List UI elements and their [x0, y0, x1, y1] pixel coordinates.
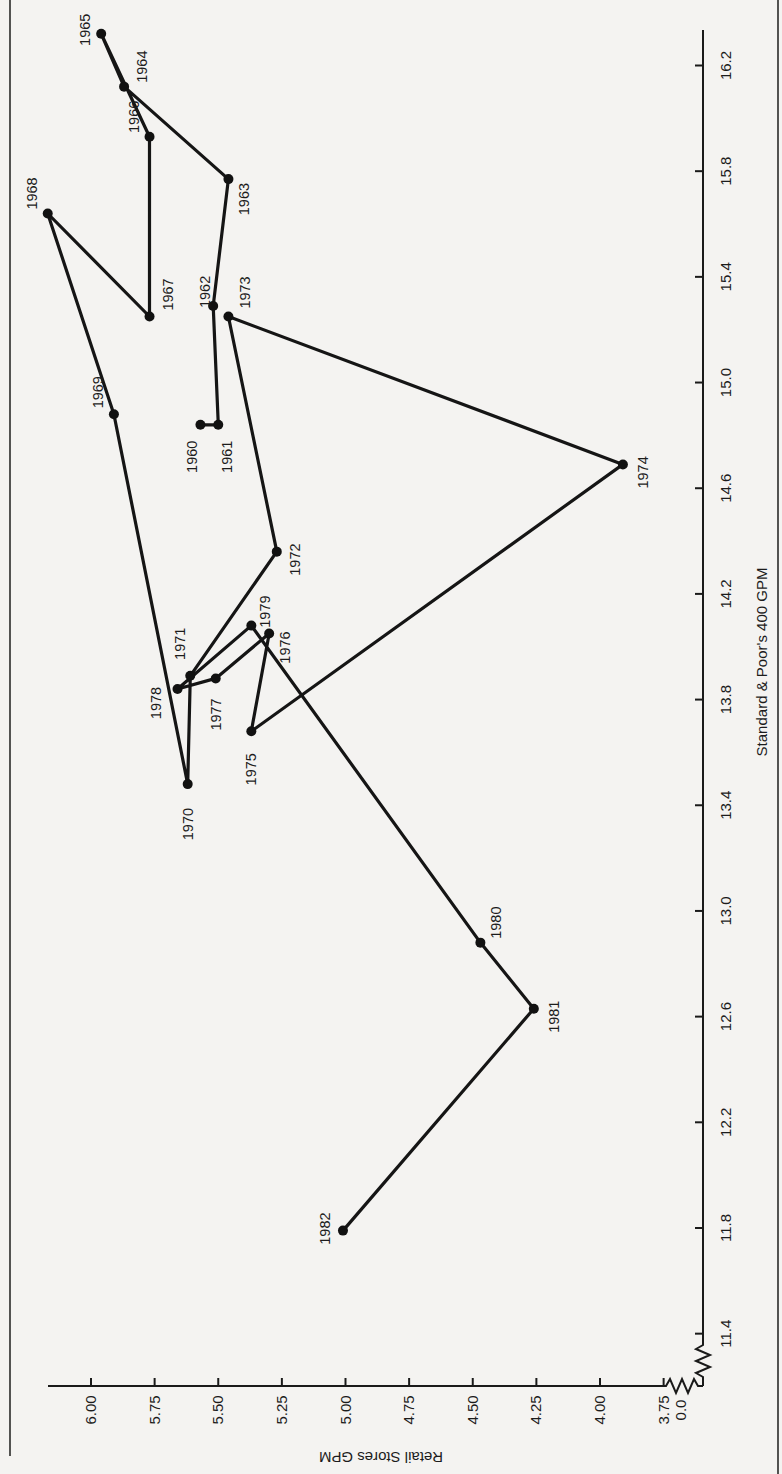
- data-point: [475, 938, 485, 948]
- data-point-label: 1970: [180, 808, 196, 840]
- rotated-line-chart: 11.411.812.212.613.013.413.814.214.615.0…: [0, 0, 782, 1474]
- sp-tick-label: 12.6: [717, 1002, 734, 1031]
- sp-axis-line: [696, 30, 710, 1386]
- sp-axis-ticks: 11.411.812.212.613.013.413.814.214.615.0…: [695, 51, 734, 1348]
- data-point-label: 1971: [172, 628, 188, 660]
- data-point-label: 1976: [277, 631, 293, 663]
- data-point: [183, 779, 193, 789]
- retail-tick-label: 6.00: [82, 1395, 99, 1424]
- sp-tick-label: 15.8: [717, 157, 734, 186]
- data-point: [529, 1004, 539, 1014]
- data-point-labels: 1960196119621963196419651966196719681969…: [24, 14, 651, 1245]
- data-point-label: 1975: [243, 753, 259, 785]
- retail-axis-title: Retail Stores GPM: [319, 1449, 443, 1466]
- data-point: [173, 684, 183, 694]
- sp-tick-label: 14.6: [717, 474, 734, 503]
- plot-area: 1960196119621963196419651966196719681969…: [24, 14, 651, 1245]
- retail-tick-label: 4.75: [400, 1395, 417, 1424]
- data-point-label: 1978: [148, 687, 164, 719]
- retail-tick-label: 4.00: [591, 1395, 608, 1424]
- sp-tick-label: 11.4: [717, 1320, 734, 1348]
- sp-tick-label: 15.0: [717, 368, 734, 397]
- retail-tick-label: 5.75: [146, 1395, 163, 1424]
- data-point: [211, 673, 221, 683]
- sp-tick-label: 12.2: [717, 1108, 734, 1137]
- data-point-label: 1969: [90, 376, 106, 408]
- sp-tick-label: 13.0: [717, 896, 734, 925]
- data-points: [43, 29, 628, 1236]
- data-point-label: 1964: [134, 51, 150, 83]
- sp-tick-label: 14.2: [717, 579, 734, 608]
- sp-axis-title: Standard & Poor's 400 GPM: [753, 568, 770, 757]
- data-point: [223, 174, 233, 184]
- retail-tick-label: 5.25: [273, 1395, 290, 1424]
- retail-tick-label: 5.50: [209, 1395, 226, 1424]
- sp-tick-label: 16.2: [717, 51, 734, 80]
- sp-tick-label: 15.4: [717, 262, 734, 291]
- retail-axis-break-label: 0.0: [672, 1400, 689, 1421]
- data-point-label: 1979: [257, 595, 273, 627]
- data-point-label: 1963: [236, 183, 252, 215]
- data-point: [246, 621, 256, 631]
- retail-tick-label: 4.25: [527, 1395, 544, 1424]
- data-point-label: 1965: [77, 14, 93, 46]
- data-point-label: 1982: [317, 1212, 333, 1244]
- data-point: [338, 1226, 348, 1236]
- retail-tick-label: 3.75: [655, 1395, 672, 1424]
- data-point-label: 1967: [160, 278, 176, 310]
- sp-tick-label: 13.8: [717, 685, 734, 714]
- data-point-label: 1962: [197, 276, 213, 308]
- series-line: [48, 34, 623, 1231]
- data-point: [185, 671, 195, 681]
- data-point-label: 1981: [546, 1001, 562, 1033]
- data-point: [119, 82, 129, 92]
- data-point-label: 1977: [208, 698, 224, 730]
- data-point: [109, 409, 119, 419]
- data-point: [145, 132, 155, 142]
- data-point-label: 1973: [237, 276, 253, 308]
- data-point: [145, 311, 155, 321]
- data-point: [618, 459, 628, 469]
- data-point: [272, 547, 282, 557]
- data-point: [43, 208, 53, 218]
- retail-tick-label: 5.00: [337, 1395, 354, 1424]
- sp-tick-label: 11.8: [717, 1214, 734, 1242]
- data-point: [246, 726, 256, 736]
- data-point: [223, 311, 233, 321]
- data-point: [195, 420, 205, 430]
- data-point: [213, 420, 223, 430]
- data-point-label: 1980: [488, 907, 504, 939]
- data-point: [96, 29, 106, 39]
- data-point-label: 1968: [24, 177, 40, 209]
- data-point: [264, 629, 274, 639]
- retail-axis-ticks: 6.005.755.505.255.004.754.504.254.003.75: [82, 1378, 672, 1425]
- retail-axis-line: [48, 1379, 703, 1393]
- retail-tick-label: 4.50: [464, 1395, 481, 1424]
- sp-tick-label: 13.4: [717, 791, 734, 820]
- data-point-label: 1960: [184, 441, 200, 473]
- data-point-label: 1961: [219, 441, 235, 473]
- data-point-label: 1966: [126, 101, 142, 133]
- data-point-label: 1974: [635, 456, 651, 488]
- data-point-label: 1972: [287, 543, 303, 575]
